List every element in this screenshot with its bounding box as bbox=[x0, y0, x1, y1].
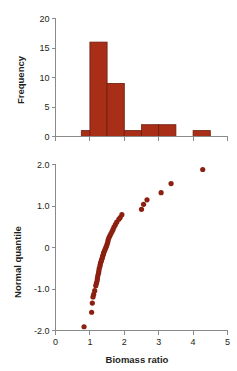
qq-x-tick-label: 2 bbox=[122, 337, 127, 347]
scatter-point bbox=[141, 202, 146, 207]
scatter-point bbox=[159, 190, 164, 195]
qq-x-tick-label: 3 bbox=[156, 337, 161, 347]
histogram-y-tick-label: 10 bbox=[39, 73, 49, 83]
scatter-point bbox=[168, 181, 173, 186]
scatter-point bbox=[81, 324, 86, 329]
histogram-bar bbox=[124, 131, 141, 137]
qq-y-tick-label: -1.0 bbox=[34, 284, 50, 294]
qq-x-tick-label: 0 bbox=[53, 337, 58, 347]
normal-quantile-chart: -2.0-1.001.02.0 012345 Normal quantile B… bbox=[0, 152, 237, 371]
histogram-bar bbox=[159, 125, 176, 137]
figure-panel: 05101520 Frequency -2.0-1.001.02.0 01234… bbox=[0, 0, 237, 371]
qq-x-tick-label: 4 bbox=[191, 337, 196, 347]
scatter-points bbox=[81, 167, 205, 329]
histogram-chart: 05101520 Frequency bbox=[0, 0, 237, 152]
scatter-point bbox=[92, 288, 97, 293]
histogram-bar bbox=[90, 42, 107, 136]
qq-y-tick-label: -2.0 bbox=[34, 326, 50, 336]
scatter-point bbox=[139, 207, 144, 212]
qq-x-axis-title: Biomass ratio bbox=[106, 354, 169, 365]
qq-y-tick-label: 1.0 bbox=[37, 201, 50, 211]
scatter-point bbox=[89, 310, 94, 315]
scatter-point bbox=[200, 167, 205, 172]
qq-x-axis: 012345 bbox=[53, 331, 230, 347]
histogram-y-tick-label: 20 bbox=[39, 14, 49, 24]
qq-x-tick-label: 5 bbox=[225, 337, 230, 347]
histogram-y-tick-label: 15 bbox=[39, 43, 49, 53]
histogram-bars bbox=[81, 42, 210, 136]
scatter-point bbox=[144, 197, 149, 202]
histogram-bar bbox=[107, 83, 124, 136]
qq-y-axis: -2.0-1.001.02.0 bbox=[34, 160, 56, 336]
histogram-bar bbox=[142, 125, 159, 137]
histogram-bar bbox=[81, 131, 90, 137]
scatter-point bbox=[90, 301, 95, 306]
qq-y-tick-label: 0 bbox=[44, 243, 49, 253]
histogram-y-tick-label: 0 bbox=[44, 132, 49, 142]
histogram-y-axis: 05101520 bbox=[39, 14, 55, 142]
histogram-bar bbox=[193, 131, 210, 137]
qq-x-tick-label: 1 bbox=[87, 337, 92, 347]
histogram-y-axis-title: Frequency bbox=[15, 55, 26, 104]
histogram-x-axis bbox=[56, 137, 228, 141]
qq-y-axis-title: Normal quantile bbox=[12, 226, 23, 298]
qq-y-tick-label: 2.0 bbox=[37, 160, 50, 170]
histogram-y-tick-label: 5 bbox=[44, 102, 49, 112]
scatter-point bbox=[119, 212, 124, 217]
